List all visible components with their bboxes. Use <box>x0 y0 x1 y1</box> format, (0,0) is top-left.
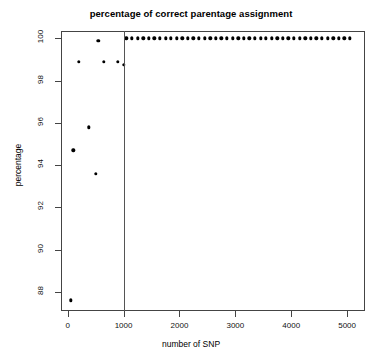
y-tick-mark <box>55 165 61 166</box>
x-tick-mark <box>235 311 236 317</box>
y-tick-label: 92 <box>36 195 45 217</box>
y-tick-mark <box>55 38 61 39</box>
x-tick-label: 2000 <box>159 321 199 330</box>
x-tick-label: 5000 <box>327 321 367 330</box>
reference-line <box>124 31 125 311</box>
y-axis-title: percentage <box>13 125 23 205</box>
x-tick-label: 0 <box>48 321 88 330</box>
x-tick-label: 1000 <box>104 321 144 330</box>
x-tick-mark <box>124 311 125 317</box>
scatter-plot: percentage of correct parentage assignme… <box>0 0 382 361</box>
y-tick-mark <box>55 81 61 82</box>
y-tick-label: 90 <box>36 237 45 259</box>
y-tick-label: 98 <box>36 68 45 90</box>
x-tick-mark <box>68 311 69 317</box>
y-tick-label: 88 <box>36 279 45 301</box>
x-tick-label: 3000 <box>215 321 255 330</box>
y-tick-label: 94 <box>36 153 45 175</box>
y-tick-label: 100 <box>36 26 45 48</box>
plot-panel <box>61 31 365 311</box>
x-axis-title: number of SNP <box>0 339 382 349</box>
chart-title: percentage of correct parentage assignme… <box>0 8 382 19</box>
y-tick-mark <box>55 292 61 293</box>
x-tick-label: 4000 <box>271 321 311 330</box>
x-tick-mark <box>179 311 180 317</box>
y-tick-label: 96 <box>36 110 45 132</box>
y-tick-mark <box>55 123 61 124</box>
y-tick-mark <box>55 250 61 251</box>
y-tick-mark <box>55 207 61 208</box>
x-tick-mark <box>347 311 348 317</box>
x-tick-mark <box>291 311 292 317</box>
